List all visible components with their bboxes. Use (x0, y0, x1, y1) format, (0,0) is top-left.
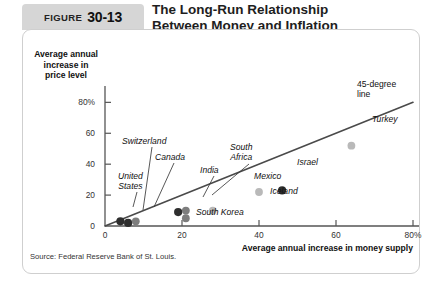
x-tick-label: 80% (400, 230, 426, 240)
x-tick-label: 40 (246, 230, 272, 240)
y-tick-label: 60 (69, 128, 95, 138)
figure-word-label: FIGURE (44, 12, 82, 23)
y-tick-label: 80% (69, 97, 95, 107)
point-label-switzerland: Switzerland (122, 137, 166, 147)
point-label-south-korea: South Korea (196, 208, 244, 218)
x-tick-label: 20 (169, 230, 195, 240)
figure-number-label: 30-13 (87, 9, 122, 25)
point-label-turkey: Turkey (372, 115, 398, 125)
reference-line-label: 45-degreeline (357, 79, 396, 99)
point-label-iceland: Iceland (270, 187, 298, 197)
figure-number-tab: FIGURE 30-13 (22, 4, 144, 30)
y-tick-label: 0 (69, 221, 95, 231)
y-axis-title: Average annualincrease inprice level (24, 49, 108, 81)
title-line-1: The Long-Run Relationship (152, 2, 432, 18)
figure-root: FIGURE 30-13 The Long-Run Relationship B… (0, 0, 447, 282)
point-label-united-states: UnitedStates (118, 172, 143, 192)
point-label-india: India (200, 166, 219, 176)
point-label-israel: Israel (297, 158, 318, 168)
x-tick-label: 60 (323, 230, 349, 240)
x-tick-label: 0 (92, 230, 118, 240)
point-label-south-africa: SouthAfrica (230, 143, 252, 163)
point-label-mexico: Mexico (254, 172, 281, 182)
x-axis-title: Average annual increase in money supply (228, 243, 413, 254)
source-note: Source: Federal Reserve Bank of St. Loui… (30, 252, 176, 261)
y-tick-label: 40 (69, 159, 95, 169)
point-label-canada: Canada (155, 153, 185, 163)
y-tick-label: 20 (69, 190, 95, 200)
